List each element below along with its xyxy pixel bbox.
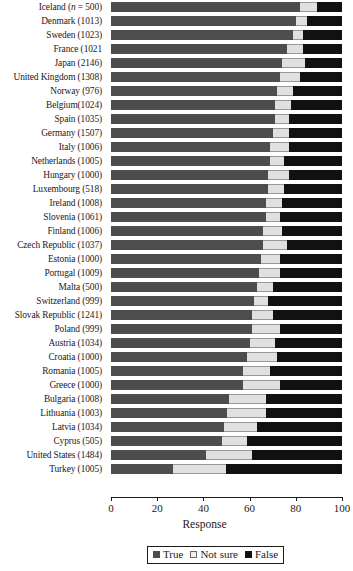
- chart-row: Estonia (1000): [0, 252, 353, 266]
- stacked-bar: [111, 156, 342, 166]
- bar-segment-true: [111, 170, 268, 180]
- bar-segment-true: [111, 282, 257, 292]
- bar-segment-true: [111, 464, 173, 474]
- row-label-italy: Italy (1006): [0, 140, 106, 154]
- bar-segment-not-sure: [243, 380, 280, 390]
- stacked-bar: [111, 72, 342, 82]
- bar-segment-not-sure: [287, 44, 303, 54]
- row-label-latvia: Latvia (1034): [0, 420, 106, 434]
- bar-segment-true: [111, 86, 277, 96]
- chart-row: Luxembourg (518): [0, 182, 353, 196]
- chart-row: Czech Republic (1037): [0, 238, 353, 252]
- bar-segment-false: [280, 268, 342, 278]
- chart-row: Ireland (1008): [0, 196, 353, 210]
- bar-segment-false: [284, 156, 342, 166]
- stacked-bar: [111, 142, 342, 152]
- bar-segment-not-sure: [296, 16, 308, 26]
- bar-segment-true: [111, 422, 224, 432]
- chart-row: Portugal (1009): [0, 266, 353, 280]
- x-tick-label: 40: [188, 501, 218, 515]
- bar-segment-false: [275, 338, 342, 348]
- bar-segment-false: [289, 170, 342, 180]
- row-label-germany: Germany (1507): [0, 126, 106, 140]
- legend-label-not-sure: Not sure: [200, 548, 238, 561]
- bar-segment-true: [111, 16, 296, 26]
- bar-segment-true: [111, 156, 270, 166]
- stacked-bar: [111, 100, 342, 110]
- row-label-finland: Finland (1006): [0, 224, 106, 238]
- legend-swatch-not-sure-icon: [190, 551, 197, 558]
- stacked-bar: [111, 254, 342, 264]
- bar-segment-true: [111, 310, 252, 320]
- row-label-iceland: Iceland (n = 500): [0, 0, 106, 14]
- bar-segment-false: [280, 212, 342, 222]
- row-label-spain: Spain (1035): [0, 112, 106, 126]
- chart-row: Bulgaria (1008): [0, 392, 353, 406]
- chart-rows: Iceland (n = 500)Denmark (1013)Sweden (1…: [0, 0, 353, 476]
- row-label-greece: Greece (1000): [0, 378, 106, 392]
- chart-row: Denmark (1013): [0, 14, 353, 28]
- bar-segment-false: [289, 128, 342, 138]
- bar-segment-true: [111, 296, 254, 306]
- chart-row: Germany (1507): [0, 126, 353, 140]
- bar-segment-false: [280, 254, 342, 264]
- x-axis-title: Response: [0, 518, 353, 530]
- legend-item-true: True: [153, 548, 183, 561]
- row-label-romania: Romania (1005): [0, 364, 106, 378]
- bar-segment-true: [111, 436, 222, 446]
- x-tick-label: 0: [96, 501, 126, 515]
- stacked-bar: [111, 408, 342, 418]
- bar-segment-not-sure: [227, 408, 266, 418]
- row-label-lithuania: Lithuania (1003): [0, 406, 106, 420]
- row-label-portugal: Portugal (1009): [0, 266, 106, 280]
- chart-row: Sweden (1023): [0, 28, 353, 42]
- chart-row: Netherlands (1005): [0, 154, 353, 168]
- row-label-sweden: Sweden (1023): [0, 28, 106, 42]
- bar-segment-true: [111, 44, 287, 54]
- bar-segment-false: [303, 44, 342, 54]
- row-label-norway: Norway (976): [0, 84, 106, 98]
- stacked-bar: [111, 240, 342, 250]
- chart-row: France (1021: [0, 42, 353, 56]
- chart-row: Japan (2146): [0, 56, 353, 70]
- bar-segment-not-sure: [261, 254, 279, 264]
- stacked-bar: [111, 310, 342, 320]
- chart-row: United States (1484): [0, 448, 353, 462]
- bar-segment-not-sure: [229, 394, 266, 404]
- stacked-bar: [111, 44, 342, 54]
- bar-segment-not-sure: [259, 268, 280, 278]
- stacked-bar: [111, 296, 342, 306]
- bar-segment-false: [284, 184, 342, 194]
- bar-segment-true: [111, 58, 282, 68]
- row-label-japan: Japan (2146): [0, 56, 106, 70]
- stacked-bar: [111, 338, 342, 348]
- chart-row: Poland (999): [0, 322, 353, 336]
- bar-segment-true: [111, 268, 259, 278]
- bar-segment-false: [266, 394, 342, 404]
- bar-segment-true: [111, 352, 247, 362]
- row-label-slovak: Slovak Republic (1241): [0, 308, 106, 322]
- stacked-bar: [111, 30, 342, 40]
- legend-swatch-false-icon: [245, 551, 252, 558]
- bar-segment-false: [287, 240, 342, 250]
- bar-segment-not-sure: [243, 366, 271, 376]
- chart-row: Latvia (1034): [0, 420, 353, 434]
- bar-segment-false: [307, 16, 342, 26]
- row-label-netherlands: Netherlands (1005): [0, 154, 106, 168]
- row-label-czech: Czech Republic (1037): [0, 238, 106, 252]
- bar-segment-false: [293, 86, 342, 96]
- x-tick-label: 20: [142, 501, 172, 515]
- bar-segment-not-sure: [263, 226, 281, 236]
- bar-segment-not-sure: [270, 156, 284, 166]
- row-label-switzerland: Switzerland (999): [0, 294, 106, 308]
- bar-segment-not-sure: [250, 338, 275, 348]
- bar-segment-not-sure: [280, 72, 301, 82]
- bar-segment-true: [111, 128, 273, 138]
- bar-segment-true: [111, 394, 229, 404]
- bar-segment-false: [289, 142, 342, 152]
- chart-row: Romania (1005): [0, 364, 353, 378]
- row-label-estonia: Estonia (1000): [0, 252, 106, 266]
- bar-segment-false: [282, 198, 342, 208]
- chart-row: Spain (1035): [0, 112, 353, 126]
- row-label-turkey: Turkey (1005): [0, 462, 106, 476]
